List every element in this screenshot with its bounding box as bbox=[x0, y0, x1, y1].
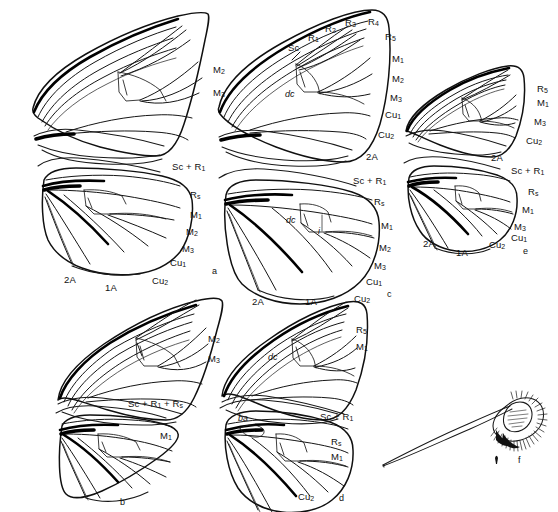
vein-label-c-forewing-7: M2 bbox=[392, 74, 404, 84]
vein-label-c-forewing-11: 2A bbox=[366, 152, 378, 162]
vein-label-a-hindwing-4: M3 bbox=[182, 244, 194, 254]
vein-label-d-forewing-0: R5 bbox=[356, 325, 367, 335]
vein-label-e-forewing-4: 2A bbox=[491, 153, 503, 163]
vein-label-b-hindwing-0: Sc + R1 + Rs bbox=[128, 399, 183, 409]
vein-label-d-forewing-2: dc bbox=[268, 353, 278, 362]
vein-label-a-hindwing-7: 2A bbox=[64, 275, 76, 285]
vein-label-a-hindwing-1: Rs bbox=[190, 190, 200, 200]
vein-label-a-hindwing-8: 1A bbox=[105, 283, 117, 293]
vein-label-c-hindwing-1: Rs bbox=[374, 197, 384, 207]
vein-label-e-hindwing-3: M3 bbox=[514, 222, 526, 232]
vein-label-c-forewing-8: M3 bbox=[390, 93, 402, 103]
vein-label-c-forewing-5: R5 bbox=[385, 32, 396, 42]
vein-label-c-hindwing-2: M1 bbox=[381, 221, 393, 231]
vein-label-d-hindwing-4: ba bbox=[238, 414, 248, 423]
panel-letter-d: d bbox=[339, 493, 344, 503]
vein-label-a-hindwing-0: Sc + R1 bbox=[172, 162, 205, 172]
vein-label-c-hindwing-3: M2 bbox=[379, 243, 391, 253]
vein-label-e-forewing-3: Cu2 bbox=[526, 136, 542, 146]
vein-label-b-forewing-1: M3 bbox=[208, 354, 220, 364]
vein-label-a-hindwing-6: Cu2 bbox=[152, 276, 168, 286]
vein-label-a-hindwing-3: M2 bbox=[186, 227, 198, 237]
vein-label-e-forewing-2: M3 bbox=[534, 117, 546, 127]
vein-label-e-hindwing-0: Sc + R1 bbox=[511, 166, 544, 176]
vein-label-c-hindwing-8: 1A bbox=[305, 297, 317, 307]
vein-label-c-forewing-0: Sc bbox=[288, 43, 299, 53]
vein-label-c-hindwing-9: dc bbox=[286, 216, 296, 225]
vein-label-c-forewing-1: R1 bbox=[308, 33, 319, 43]
vein-label-e-forewing-1: M1 bbox=[537, 98, 549, 108]
vein-label-d-hindwing-1: Rs bbox=[331, 437, 341, 447]
vein-label-b-forewing-0: M2 bbox=[208, 334, 220, 344]
vein-label-e-hindwing-6: 2A bbox=[423, 239, 435, 249]
vein-label-c-forewing-10: Cu2 bbox=[378, 130, 394, 140]
vein-label-e-hindwing-4: Cu1 bbox=[511, 233, 527, 243]
vein-label-d-hindwing-2: M1 bbox=[331, 452, 343, 462]
panel-letter-a: a bbox=[212, 266, 217, 276]
figure-plate: M2M3Sc + R1RsM1M2M3Cu1Cu22A1AaM2M3Sc + R… bbox=[0, 0, 558, 512]
panel-f-structure bbox=[383, 391, 547, 467]
panel-a-forewing bbox=[33, 13, 209, 165]
vein-label-d-forewing-1: M1 bbox=[356, 342, 368, 352]
panel-c-forewing bbox=[218, 10, 390, 166]
vein-label-e-hindwing-2: M1 bbox=[522, 205, 534, 215]
vein-label-c-forewing-12: dc bbox=[285, 90, 295, 99]
vein-label-c-hindwing-6: Cu2 bbox=[354, 294, 370, 304]
vein-label-c-forewing-3: R3 bbox=[345, 18, 356, 28]
vein-label-c-hindwing-7: 2A bbox=[252, 297, 264, 307]
vein-label-c-forewing-6: M1 bbox=[392, 54, 404, 64]
panel-e-forewing bbox=[406, 66, 525, 157]
vein-label-d-hindwing-3: Cu2 bbox=[298, 492, 314, 502]
vein-label-e-hindwing-7: 1A bbox=[456, 248, 468, 258]
vein-label-a-hindwing-2: M1 bbox=[190, 210, 202, 220]
vein-label-c-hindwing-0: Sc + R1 bbox=[353, 176, 386, 186]
panel-d-forewing bbox=[222, 302, 367, 424]
vein-label-c-forewing-2: R2 bbox=[325, 24, 336, 34]
vein-label-e-forewing-0: R5 bbox=[537, 84, 548, 94]
vein-label-d-hindwing-0: Sc + R1 bbox=[320, 412, 353, 422]
panel-letter-f: f bbox=[518, 455, 521, 465]
vein-label-c-forewing-9: Cu1 bbox=[385, 110, 401, 120]
vein-label-e-hindwing-5: Cu2 bbox=[489, 240, 505, 250]
vein-label-c-forewing-4: R4 bbox=[368, 17, 379, 27]
vein-label-a-forewing-0: M2 bbox=[213, 65, 225, 75]
panel-c-hindwing bbox=[219, 169, 379, 304]
venation-drawing bbox=[0, 0, 558, 512]
panel-letter-c: c bbox=[387, 289, 392, 299]
vein-label-e-hindwing-1: Rs bbox=[528, 187, 538, 197]
vein-label-a-forewing-1: M3 bbox=[213, 88, 225, 98]
vein-label-b-hindwing-1: M1 bbox=[160, 431, 172, 441]
vein-label-c-hindwing-5: Cu1 bbox=[366, 277, 382, 287]
vein-label-c-hindwing-4: M3 bbox=[374, 261, 386, 271]
vein-label-a-hindwing-5: Cu1 bbox=[170, 258, 186, 268]
panel-letter-b: b bbox=[120, 497, 125, 507]
vein-label-c-hindwing-10: i bbox=[318, 227, 320, 236]
panel-letter-e: e bbox=[523, 246, 528, 256]
